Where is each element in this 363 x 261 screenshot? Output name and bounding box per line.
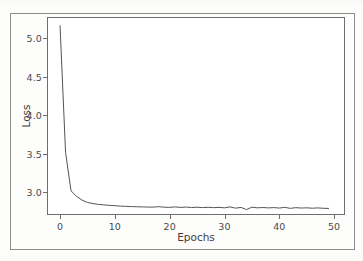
x-axis-label: Epochs: [177, 231, 215, 243]
x-tick-mark: [279, 215, 280, 219]
x-tick-label: 40: [273, 221, 285, 232]
plot-area: [47, 17, 345, 215]
x-tick-mark: [60, 215, 61, 219]
x-tick-label: 20: [164, 221, 176, 232]
y-tick-label: 4.0: [20, 110, 42, 121]
x-tick-mark: [334, 215, 335, 219]
x-tick-label: 10: [109, 221, 121, 232]
y-tick-label: 3.5: [20, 148, 42, 159]
x-tick-label: 50: [328, 221, 340, 232]
y-tick-label: 3.0: [20, 187, 42, 198]
x-tick-mark: [225, 215, 226, 219]
x-tick-label: 0: [57, 221, 63, 232]
x-tick-label: 30: [218, 221, 230, 232]
x-tick-mark: [170, 215, 171, 219]
y-tick-label: 5.0: [20, 33, 42, 44]
y-tick-label: 4.5: [20, 71, 42, 82]
x-tick-mark: [115, 215, 116, 219]
chart-figure: Loss Epochs 3.03.54.04.55.0 01020304050: [0, 0, 363, 261]
loss-curve-svg: [48, 18, 344, 214]
loss-curve-line: [60, 26, 329, 210]
